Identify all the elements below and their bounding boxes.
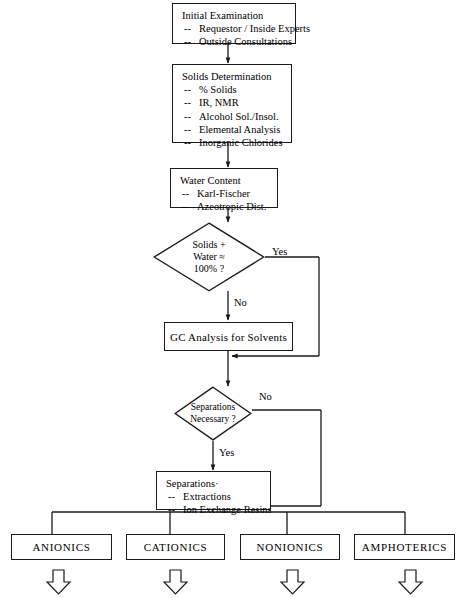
bullet-text: Inorganic Chlorides [199, 137, 283, 148]
node-solids-determination: Solids Determination --% Solids --IR, NM… [172, 64, 292, 143]
bullet-text: IR, NMR [199, 97, 239, 108]
node-separations-check: Separations Necessary ? [174, 386, 252, 441]
bullet-text: Ion Exchange Resins [183, 504, 272, 515]
decision-line: Separations [191, 402, 235, 413]
node-label: AMPHOTERICS [362, 541, 447, 553]
node-water-content: Water Content --Karl-Fischer --Azeotropi… [170, 168, 278, 208]
node-label: GC Analysis for Solvents [170, 331, 287, 343]
decision-label: Separations Necessary ? [174, 386, 252, 441]
decision-line: Water ≈ [193, 251, 225, 263]
node-bullet: --Alcohol Sol./Insol. [182, 110, 283, 123]
node-label: NONIONICS [257, 541, 324, 553]
node-gc-analysis: GC Analysis for Solvents [164, 322, 293, 351]
node-bullet: --Outside Consultations [182, 35, 287, 48]
bullet-dash: -- [184, 83, 199, 96]
bullet-text: Karl-Fischer [197, 188, 250, 199]
edge-label-solids-water-no: No [234, 297, 247, 308]
bullet-dash: -- [168, 490, 183, 503]
decision-line: Necessary ? [190, 414, 236, 425]
node-amphoterics: AMPHOTERICS [354, 534, 455, 560]
node-bullet: --IR, NMR [182, 96, 283, 109]
node-bullet: --% Solids [182, 83, 283, 96]
bullet-dash: -- [184, 123, 199, 136]
node-bullet: --Elemental Analysis [182, 123, 283, 136]
flowchart-canvas: Initial Examination --Requestor / Inside… [0, 0, 463, 598]
node-title: Separations· [166, 477, 262, 490]
node-title: Initial Examination [182, 9, 287, 22]
bullet-text: Outside Consultations [199, 36, 292, 47]
bullet-text: Elemental Analysis [199, 124, 280, 135]
node-bullet: --Inorganic Chlorides [182, 136, 283, 149]
bullet-dash: -- [184, 96, 199, 109]
node-bullet: --Azeotropic Dist. [180, 200, 269, 213]
decision-line: 100% ? [194, 263, 224, 275]
decision-label: Solids + Water ≈ 100% ? [153, 222, 265, 292]
node-bullet: --Karl-Fischer [180, 187, 269, 200]
node-nonionics: NONIONICS [240, 534, 340, 560]
bullet-dash: -- [184, 136, 199, 149]
edge-label-separations-yes: Yes [219, 447, 234, 458]
bullet-dash: -- [184, 35, 199, 48]
node-cationics: CATIONICS [126, 534, 225, 560]
bullet-text: Requestor / Inside Experts [199, 23, 310, 34]
edge-label-solids-water-yes: Yes [272, 246, 287, 257]
bullet-dash: -- [168, 503, 183, 516]
node-separations: Separations· --Extractions --Ion Exchang… [156, 471, 271, 510]
bullet-text: Extractions [183, 491, 231, 502]
node-bullet: --Ion Exchange Resins [166, 503, 262, 516]
bullet-text: Azeotropic Dist. [197, 201, 266, 212]
node-label: CATIONICS [144, 541, 208, 553]
bullet-text: % Solids [199, 84, 237, 95]
node-title: Water Content [180, 174, 269, 187]
edge-label-separations-no: No [259, 391, 272, 402]
node-bullet: --Requestor / Inside Experts [182, 22, 287, 35]
node-initial-examination: Initial Examination --Requestor / Inside… [172, 3, 296, 44]
decision-line: Solids + [192, 239, 225, 251]
node-anionics: ANIONICS [11, 534, 112, 560]
bullet-dash: -- [184, 22, 199, 35]
node-solids-water-check: Solids + Water ≈ 100% ? [153, 222, 265, 292]
node-bullet: --Extractions [166, 490, 262, 503]
bullet-dash: -- [182, 200, 197, 213]
node-title: Solids Determination [182, 70, 283, 83]
bullet-dash: -- [182, 187, 197, 200]
bullet-text: Alcohol Sol./Insol. [199, 111, 279, 122]
bullet-dash: -- [184, 110, 199, 123]
node-label: ANIONICS [32, 541, 90, 553]
